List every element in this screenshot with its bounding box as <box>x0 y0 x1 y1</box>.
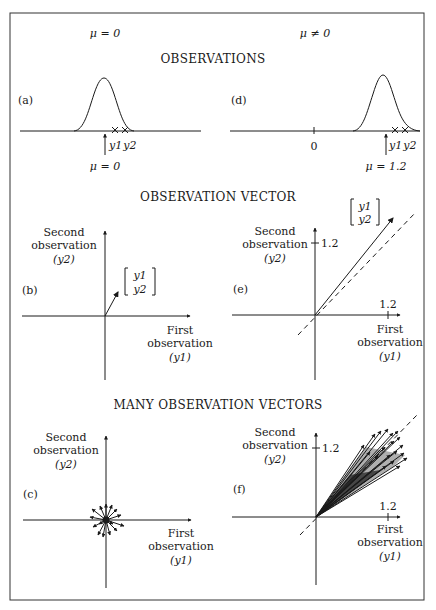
section-title-many-vectors: MANY OBSERVATION VECTORS <box>113 398 322 412</box>
section-title-observation-vector: OBSERVATION VECTOR <box>140 190 297 204</box>
section-title-observations: OBSERVATIONS <box>160 52 265 66</box>
panel-c: Second observation (y2) (c) First observ… <box>23 431 214 588</box>
x-axis-label-line3-b: (y1) <box>169 351 191 364</box>
x-axis-label-line1-b: First <box>167 324 194 337</box>
x-axis-label-line2-b: observation <box>147 337 213 350</box>
figure-border <box>10 13 424 600</box>
x-axis-label-line2-c: observation <box>148 540 214 553</box>
panel-f: Second observation (y2) (f) 1.2 1.2 <box>232 415 423 585</box>
y-axis-label-line3-e: (y2) <box>264 252 286 265</box>
panel-a: (a) y1y2 μ = 0 <box>18 78 201 173</box>
x-tick-label-f: 1.2 <box>379 500 397 513</box>
panel-label-c: (c) <box>23 488 38 501</box>
panel-d: (d) 0 y1y2 μ = 1.2 <box>230 75 420 173</box>
svg-text:y2: y2 <box>132 283 146 296</box>
panel-label-b: (b) <box>22 284 38 297</box>
x-axis-label-line1-c: First <box>168 527 195 540</box>
svg-text:y1: y1 <box>132 269 146 282</box>
x-axis-label-line3-f: (y1) <box>379 550 401 563</box>
x-axis-label-line2-e: observation <box>357 336 423 349</box>
vector-bracket-b: y1 y2 <box>125 268 155 296</box>
observation-marks-a <box>112 127 128 133</box>
panel-b: Second observation (y2) (b) y1 y2 First … <box>22 226 213 380</box>
y-axis-label-line1-b: Second <box>44 226 85 239</box>
obs-label-a: y1y2 <box>108 139 136 152</box>
panel-label-a: (a) <box>18 94 33 107</box>
equal-line-e <box>298 212 416 335</box>
y-axis-label-line3-f: (y2) <box>264 453 286 466</box>
vector-bracket-e: y1 y2 <box>351 199 379 226</box>
svg-text:y2: y2 <box>357 213 371 226</box>
panel-label-f: (f) <box>233 483 246 496</box>
y-axis-label-line1-f: Second <box>255 426 296 439</box>
svg-text:y1: y1 <box>357 200 371 213</box>
panel-label-e: (e) <box>233 283 248 296</box>
observation-marks-d <box>392 127 408 133</box>
x-axis-label-line3-e: (y1) <box>379 350 401 363</box>
zero-label-d: 0 <box>311 140 318 153</box>
x-axis-label-line3-c: (y1) <box>170 554 192 567</box>
y-axis-label-line3-b: (y2) <box>53 253 75 266</box>
y-axis-label-line3-c: (y2) <box>55 458 77 471</box>
x-tick-label-e: 1.2 <box>379 298 397 311</box>
figure-canvas: μ = 0 μ ≠ 0 OBSERVATIONS (a) y1y2 μ = 0 … <box>0 0 436 610</box>
y-axis-label-line2-f: observation <box>242 439 308 452</box>
panel-label-d: (d) <box>231 94 247 107</box>
y-axis-label-line2-e: observation <box>242 238 308 251</box>
column-header-left: μ = 0 <box>90 27 120 40</box>
y-axis-label-line2-b: observation <box>31 239 97 252</box>
panel-e: Second observation (y2) (e) 1.2 1.2 y1 y… <box>232 199 423 380</box>
y-axis-label-line1-c: Second <box>46 431 87 444</box>
y-tick-label-f: 1.2 <box>322 442 340 455</box>
observation-vector-b <box>105 292 118 316</box>
y-tick-label-e: 1.2 <box>321 237 339 250</box>
y-axis-label-line1-e: Second <box>255 225 296 238</box>
mean-label-a: μ = 0 <box>90 160 120 173</box>
y-axis-label-line2-c: observation <box>33 444 99 457</box>
obs-label-d: y1y2 <box>388 139 416 152</box>
mean-label-d: μ = 1.2 <box>366 160 407 173</box>
normal-curve-d <box>353 75 420 131</box>
column-header-right: μ ≠ 0 <box>300 27 330 40</box>
x-axis-label-line1-e: First <box>377 323 404 336</box>
x-axis-label-line1-f: First <box>377 523 404 536</box>
normal-curve-a <box>74 78 134 131</box>
x-axis-label-line2-f: observation <box>357 536 423 549</box>
